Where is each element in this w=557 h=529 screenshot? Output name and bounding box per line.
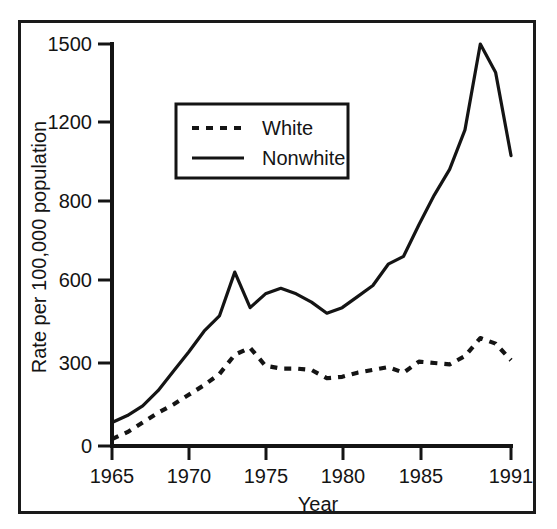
y-tick-label-1500: 1500 bbox=[48, 33, 93, 55]
y-axis: 1500 1200 800 600 300 0 Rate per 100,000… bbox=[28, 33, 112, 457]
y-tick-label-600: 600 bbox=[59, 269, 92, 291]
x-axis: 1965 1970 1975 1980 1985 1991 Year bbox=[90, 446, 534, 515]
x-axis-title: Year bbox=[298, 493, 339, 515]
figure-container: 1500 1200 800 600 300 0 Rate per 100,000… bbox=[0, 0, 557, 529]
y-axis-title: Rate per 100,000 population bbox=[28, 121, 50, 373]
x-tick-label-1975: 1975 bbox=[244, 465, 289, 487]
x-axis-tick-labels: 1965 1970 1975 1980 1985 1991 bbox=[90, 465, 534, 487]
y-tick-label-300: 300 bbox=[59, 352, 92, 374]
y-tick-label-1200: 1200 bbox=[48, 111, 93, 133]
y-axis-ticks bbox=[98, 44, 112, 446]
x-axis-ticks bbox=[112, 446, 511, 460]
legend: White Nonwhite bbox=[176, 104, 348, 178]
legend-label-nonwhite: Nonwhite bbox=[262, 147, 345, 169]
series-line-white bbox=[112, 338, 511, 439]
x-tick-label-1970: 1970 bbox=[167, 465, 212, 487]
x-tick-label-1991: 1991 bbox=[489, 465, 534, 487]
x-tick-label-1980: 1980 bbox=[321, 465, 366, 487]
y-axis-tick-labels: 1500 1200 800 600 300 0 bbox=[48, 33, 93, 457]
x-tick-label-1985: 1985 bbox=[399, 465, 444, 487]
legend-label-white: White bbox=[262, 117, 313, 139]
y-tick-label-800: 800 bbox=[59, 190, 92, 212]
y-tick-label-0: 0 bbox=[81, 435, 92, 457]
x-tick-label-1965: 1965 bbox=[90, 465, 135, 487]
line-chart: 1500 1200 800 600 300 0 Rate per 100,000… bbox=[0, 0, 557, 529]
